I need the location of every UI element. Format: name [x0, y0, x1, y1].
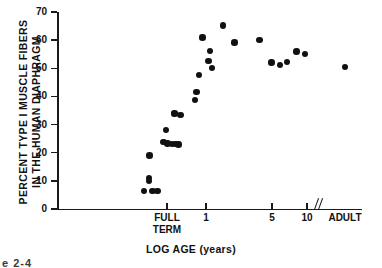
x-tick-label: 5 — [269, 212, 275, 224]
y-tick-mark — [51, 96, 57, 97]
data-point — [302, 51, 308, 57]
data-point — [293, 48, 299, 54]
data-point — [193, 89, 199, 95]
x-axis-title: LOG AGE (years) — [0, 243, 382, 255]
x-tick-label: 1 — [203, 212, 209, 224]
data-point — [163, 127, 169, 133]
data-point — [175, 141, 181, 147]
figure-caption-fragment: e 2-4 — [2, 258, 32, 267]
data-point — [177, 112, 183, 118]
x-tick-label-adult: ADULT — [328, 212, 361, 224]
data-point — [277, 62, 283, 68]
y-tick-mark — [51, 39, 57, 40]
data-point — [192, 97, 198, 103]
y-tick-label: 30 — [20, 120, 47, 130]
y-tick-mark — [51, 208, 57, 209]
data-point — [205, 58, 211, 64]
y-tick-label: 60 — [20, 35, 47, 45]
figure-container: PERCENT TYPE I MUSCLE FIBERS IN THE HUMA… — [0, 0, 382, 268]
y-tick-label: 20 — [20, 148, 47, 158]
data-point — [154, 188, 160, 194]
y-tick-mark — [51, 180, 57, 181]
data-point — [220, 22, 226, 28]
data-point — [268, 59, 274, 65]
x-tick-mark — [306, 203, 307, 209]
x-tick-label: FULLTERM — [153, 212, 181, 235]
data-point — [196, 72, 202, 78]
x-tick-mark — [271, 203, 272, 209]
y-tick-label: 70 — [20, 7, 47, 17]
plot-area: 010203040506070 FULLTERM1510ADULT — [0, 0, 382, 268]
data-point — [141, 188, 147, 194]
x-tick-label: 10 — [301, 212, 312, 224]
data-point — [256, 37, 262, 43]
y-tick-label: 10 — [20, 176, 47, 186]
y-tick-mark — [51, 124, 57, 125]
data-point — [146, 152, 152, 158]
data-point — [342, 64, 348, 70]
y-tick-label: 40 — [20, 91, 47, 101]
data-point — [209, 65, 215, 71]
data-point — [207, 48, 213, 54]
data-point — [231, 39, 237, 45]
axis-break-icon — [313, 198, 327, 211]
y-tick-label: 50 — [20, 63, 47, 73]
x-tick-mark — [166, 203, 167, 209]
data-point — [199, 34, 205, 40]
y-axis-line — [57, 12, 59, 210]
y-tick-label: 0 — [20, 204, 47, 214]
y-tick-mark — [51, 152, 57, 153]
data-point — [284, 59, 290, 65]
x-tick-mark — [205, 203, 206, 209]
y-tick-mark — [51, 68, 57, 69]
y-tick-mark — [51, 11, 57, 12]
